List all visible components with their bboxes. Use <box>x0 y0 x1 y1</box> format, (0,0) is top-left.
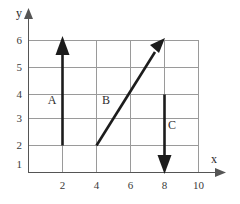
y-tick-labels: 6 5 4 3 2 1 <box>17 34 23 170</box>
y-tick-label-2: 2 <box>17 139 23 151</box>
x-tick-label-8: 8 <box>162 179 168 191</box>
x-tick-label-4: 4 <box>94 179 100 191</box>
vector-a-arrowhead-icon <box>56 36 70 55</box>
y-tick-label-6: 6 <box>17 34 23 46</box>
x-tick-label-10: 10 <box>193 179 205 191</box>
vector-label-c: C <box>168 118 176 132</box>
x-tick-label-2: 2 <box>60 179 66 191</box>
vector-a <box>56 36 70 146</box>
x-axis-arrowhead-icon <box>215 168 226 177</box>
y-axis-label: y <box>16 6 22 20</box>
vector-diagram: 6 5 4 3 2 1 2 4 6 8 10 y x A B C <box>0 0 240 204</box>
x-tick-labels: 2 4 6 8 10 <box>60 179 205 191</box>
y-tick-label-5: 5 <box>17 61 23 73</box>
y-axis <box>24 8 33 173</box>
y-tick-label-4: 4 <box>17 88 23 100</box>
vector-c <box>158 95 172 175</box>
x-tick-label-6: 6 <box>128 179 134 191</box>
vector-label-b: B <box>102 93 110 107</box>
y-axis-arrowhead-icon <box>24 8 33 19</box>
x-axis <box>29 168 227 177</box>
y-tick-label-1: 1 <box>17 158 23 170</box>
vector-label-a: A <box>48 93 57 107</box>
y-tick-label-3: 3 <box>17 112 23 124</box>
x-axis-label: x <box>211 152 217 166</box>
vector-c-arrowhead-icon <box>158 155 172 174</box>
diagram-canvas: 6 5 4 3 2 1 2 4 6 8 10 y x A B C <box>0 0 240 204</box>
